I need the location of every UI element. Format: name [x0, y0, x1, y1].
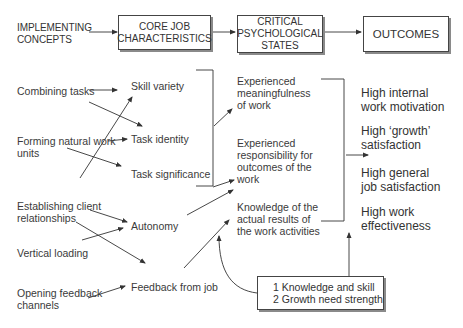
header-critical-psychological-states: CRITICAL PSYCHOLOGICAL STATES [237, 15, 323, 53]
state-line: responsibility for [237, 149, 313, 161]
concept-establishing-client-relationships: Establishing client relationships [17, 200, 101, 224]
core-task-identity: Task identity [131, 133, 189, 145]
state-line: outcomes of the [237, 161, 313, 173]
state-line: Knowledge of the [237, 201, 320, 213]
state-line: Experienced [237, 75, 311, 87]
header-core-job-characteristics: CORE JOB CHARACTERISTICS [118, 15, 211, 50]
arrow-moderators-to-knowledge [219, 236, 257, 293]
state-line: the work activities [237, 225, 320, 237]
outcome-line: effectiveness [361, 220, 431, 234]
header-line: CRITICAL [257, 16, 303, 28]
header-line: CORE JOB [139, 21, 190, 33]
core-autonomy: Autonomy [131, 220, 178, 232]
state-line: meaningfulness [237, 87, 311, 99]
state-experienced-meaningfulness: Experienced meaningfulness of work [237, 75, 311, 111]
outcome-line: job satisfaction [361, 181, 440, 195]
moderator-knowledge-and-skill: 1 Knowledge and skill [258, 281, 383, 293]
concept-line: Combining tasks [17, 85, 95, 97]
concept-line: Establishing client [17, 200, 101, 212]
concept-line: Opening feedback [17, 287, 102, 299]
state-experienced-responsibility: Experienced responsibility for outcomes … [237, 137, 313, 185]
core-task-significance: Task significance [131, 168, 210, 180]
concept-line: channels [17, 299, 102, 311]
moderators-box: 1 Knowledge and skill 2 Growth need stre… [257, 276, 384, 310]
state-line: work [237, 173, 313, 185]
concept-opening-feedback-channels: Opening feedback channels [17, 287, 102, 311]
header-line: CHARACTERISTICS [117, 33, 211, 45]
concept-line: Forming natural work [17, 135, 116, 147]
header-line: CONCEPTS [17, 34, 92, 46]
header-line: OUTCOMES [373, 28, 439, 40]
core-skill-variety: Skill variety [131, 80, 184, 92]
concept-combining-tasks: Combining tasks [17, 85, 95, 97]
outcome-general-job-satisfaction: High general job satisfaction [361, 167, 440, 194]
state-line: actual results of [237, 213, 320, 225]
state-knowledge-of-results: Knowledge of the actual results of the w… [237, 201, 320, 237]
concept-vertical-loading: Vertical loading [17, 247, 88, 259]
concept-line: units [17, 147, 116, 159]
header-line: IMPLEMENTING [17, 22, 92, 34]
arrow-bracket-to-meaningfulness [214, 109, 232, 126]
moderator-growth-need-strength: 2 Growth need strength [258, 293, 383, 305]
arrow-autonomy-to-responsibility [187, 190, 233, 215]
core-feedback-from-job: Feedback from job [131, 281, 218, 293]
outcome-internal-work-motivation: High internal work motivation [361, 87, 444, 114]
outcome-line: High internal [361, 87, 444, 101]
outcome-line: satisfaction [361, 139, 430, 153]
state-line: of work [237, 99, 311, 111]
header-outcomes: OUTCOMES [363, 16, 449, 52]
bracket-critical [321, 79, 344, 221]
concept-forming-natural-work-units: Forming natural work units [17, 135, 116, 159]
arrow-bracket-to-responsibility [213, 180, 234, 187]
outcome-line: High work [361, 206, 431, 220]
arrow-feedback-to-knowledge [184, 220, 229, 268]
header-line: STATES [261, 40, 298, 52]
concept-line: relationships [17, 212, 101, 224]
outcome-work-effectiveness: High work effectiveness [361, 206, 431, 233]
outcome-line: High general [361, 167, 440, 181]
header-line: PSYCHOLOGICAL [237, 28, 323, 40]
outcome-line: High ‘growth’ [361, 125, 430, 139]
state-line: Experienced [237, 137, 313, 149]
outcome-growth-satisfaction: High ‘growth’ satisfaction [361, 125, 430, 152]
concept-line: Vertical loading [17, 247, 88, 259]
header-implementing-concepts: IMPLEMENTING CONCEPTS [17, 22, 92, 46]
outcome-line: work motivation [361, 101, 444, 115]
